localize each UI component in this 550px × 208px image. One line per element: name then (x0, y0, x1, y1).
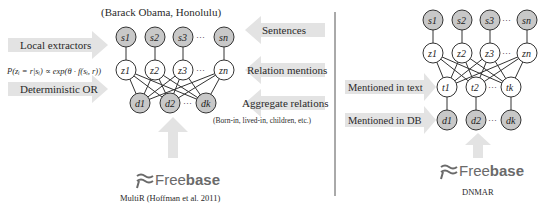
node-label: t2 (471, 82, 479, 93)
label-aggregate-examples: (Born-in, lived-in, children, etc.) (213, 116, 312, 125)
svg-text:Freebase: Freebase (155, 171, 220, 188)
label-formula: P(zᵢ = r|sᵢ) ∝ exp(θ · f(sᵢ, r)) (6, 66, 101, 76)
freebase-prefix: Free (459, 162, 490, 179)
label-relation-mentions: Relation mentions (247, 64, 327, 76)
node-label: z1 (427, 48, 437, 59)
dnmar-sentence-nodes: s1 s2 s3 sn ··· (423, 10, 537, 30)
freebase-prefix: Free (155, 171, 186, 188)
node-label: z2 (456, 48, 466, 59)
node-label: d2 (471, 115, 481, 126)
multir-relation-mention-nodes: z1 z2 z3 zn ··· (116, 60, 234, 80)
dnmar-panel: Mentioned in text Mentioned in DB s1 s2 … (345, 10, 537, 197)
dnmar-db-nodes: d1 d2 dk ··· (437, 110, 521, 130)
node-label: d1 (442, 115, 452, 126)
node-label: z2 (149, 65, 159, 76)
multir-panel: (Barack Obama, Honolulu) Local extractor… (6, 6, 328, 203)
node-label: zn (521, 48, 531, 59)
freebase-suffix: base (186, 171, 220, 188)
ellipsis: ··· (488, 82, 497, 92)
node-label: s3 (178, 32, 187, 43)
freebase-wave-icon (137, 175, 153, 189)
node-label: s1 (121, 32, 130, 43)
node-label: dk (201, 98, 211, 109)
multir-sentence-nodes: s1 s2 s3 sn ··· (116, 27, 234, 47)
node-label: zn (218, 65, 228, 76)
arrow-freebase-up-right (465, 133, 491, 158)
freebase-suffix: base (490, 162, 524, 179)
node-label: s3 (485, 15, 494, 26)
dnmar-relation-mention-nodes: z1 z2 z3 zn ··· (423, 43, 537, 63)
node-label: z3 (484, 48, 494, 59)
node-label: d2 (165, 98, 175, 109)
label-mentioned-in-text: Mentioned in text (348, 82, 423, 93)
node-label: s2 (150, 32, 159, 43)
dnmar-edges (433, 20, 527, 120)
ellipsis: ··· (196, 32, 205, 42)
ellipsis: ··· (183, 98, 192, 108)
node-label: dk (506, 115, 516, 126)
caption-multir: MultiR (Hoffman et al. 2011) (120, 193, 221, 203)
label-local-extractors: Local extractors (20, 39, 91, 51)
dnmar-text-mention-nodes: t1 t2 tk ··· (437, 77, 521, 97)
entity-pair-title: (Barack Obama, Honolulu) (101, 6, 221, 19)
diagram-canvas: (Barack Obama, Honolulu) Local extractor… (0, 0, 550, 208)
label-aggregate-relations: Aggregate relations (242, 97, 328, 109)
node-label: tk (506, 82, 514, 93)
node-label: z1 (120, 65, 130, 76)
label-mentioned-in-db: Mentioned in DB (348, 115, 422, 126)
label-sentences: Sentences (262, 24, 306, 36)
multir-aggregate-nodes: d1 d2 dk ··· (130, 93, 216, 113)
arrow-freebase-up (158, 117, 188, 158)
node-label: z3 (177, 65, 187, 76)
node-label: s2 (457, 15, 466, 26)
caption-dnmar: DNMAR (462, 187, 494, 197)
freebase-wave-icon (441, 166, 457, 180)
node-label: sn (522, 15, 531, 26)
ellipsis: ··· (502, 15, 511, 25)
freebase-logo-left: Freebase (137, 171, 220, 188)
node-label: t1 (442, 82, 450, 93)
ellipsis: ··· (196, 65, 205, 75)
ellipsis: ··· (488, 115, 497, 125)
node-label: d1 (135, 98, 145, 109)
node-label: sn (219, 32, 228, 43)
label-deterministic-or: Deterministic OR (20, 83, 99, 95)
svg-text:Freebase: Freebase (459, 162, 524, 179)
node-label: s1 (428, 15, 437, 26)
freebase-logo-right: Freebase (441, 162, 524, 179)
ellipsis: ··· (502, 48, 511, 58)
